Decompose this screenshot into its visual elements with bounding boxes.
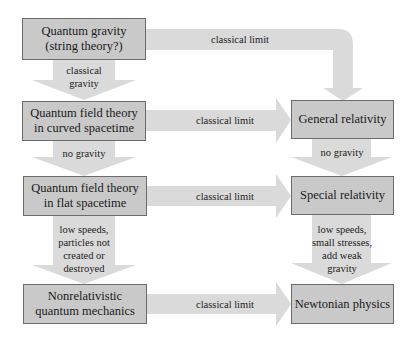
node-label: Quantum field theory in curved spacetime (25, 106, 143, 136)
edge-label-qftf-to-nrqm: low speeds, particles not created or des… (52, 223, 116, 275)
edge-label-sr-to-newton: low speeds, small stresses, add weak gra… (310, 223, 374, 275)
edge-label-gr-to-sr: no gravity (302, 146, 382, 159)
node-qft-flat: Quantum field theory in flat spacetime (23, 176, 147, 216)
edge-label-qftf-to-sr: classical limit (175, 190, 275, 203)
edge-label-nrqm-to-newton: classical limit (175, 298, 275, 311)
node-nonrelativistic-qm: Nonrelativistic quantum mechanics (23, 284, 147, 324)
node-label: Special relativity (300, 188, 385, 203)
node-label: Quantum field theory in flat spacetime (26, 181, 144, 211)
node-qft-curved: Quantum field theory in curved spacetime (22, 101, 146, 141)
node-label: General relativity (299, 112, 387, 127)
node-general-relativity: General relativity (291, 100, 394, 139)
edge-label-qg-to-qftc: classical gravity (54, 64, 114, 90)
edge-label-qftc-to-qftf: no gravity (44, 147, 124, 160)
node-newtonian-physics: Newtonian physics (291, 284, 394, 324)
node-label: Nonrelativistic quantum mechanics (26, 289, 144, 319)
node-quantum-gravity: Quantum gravity (string theory?) (22, 18, 146, 60)
node-label: Quantum gravity (string theory?) (34, 24, 134, 54)
edge-label-qftc-to-gr: classical limit (175, 114, 275, 127)
node-special-relativity: Special relativity (291, 176, 394, 215)
node-label: Newtonian physics (295, 297, 390, 312)
edge-label-qg-to-gr: classical limit (190, 33, 290, 46)
